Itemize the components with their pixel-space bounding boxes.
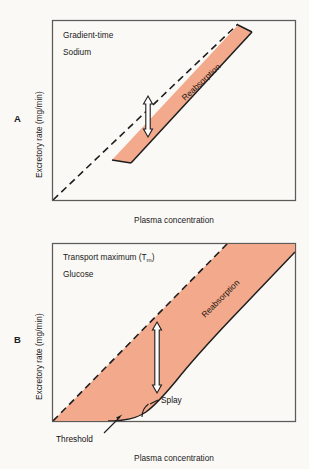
- panel-a-reabsorption-arrow: [144, 96, 153, 137]
- panel-b-y-axis-label: Excretory rate (mg/min): [34, 313, 44, 400]
- splay-label: Splay: [161, 395, 183, 405]
- figure-container: A Excretory rate (mg/min) Reabsorption: [0, 0, 309, 469]
- panel-a-letter: A: [14, 113, 21, 124]
- panel-a-title-line1: Gradient-time: [63, 30, 114, 40]
- panel-a-title-line2: Sodium: [63, 47, 91, 57]
- panel-b-title-suffix: ): [152, 252, 155, 262]
- panel-a-y-axis-label: Excretory rate (mg/min): [34, 91, 44, 178]
- panel-a: A Excretory rate (mg/min) Reabsorption: [14, 21, 296, 226]
- panel-b: B Excretory rate (mg/min) Reabsorption T…: [14, 243, 296, 463]
- panel-b-x-axis-label: Plasma concentration: [134, 453, 214, 463]
- renal-transport-figure: A Excretory rate (mg/min) Reabsorption: [0, 0, 309, 469]
- panel-b-title-line1: Transport maximum (Tm): [63, 252, 155, 263]
- panel-a-x-axis-label: Plasma concentration: [134, 215, 214, 225]
- threshold-label: Threshold: [56, 434, 93, 444]
- panel-b-title-prefix: Transport maximum (T: [63, 252, 147, 262]
- panel-b-letter: B: [14, 334, 21, 345]
- panel-b-title-line2: Glucose: [63, 269, 94, 279]
